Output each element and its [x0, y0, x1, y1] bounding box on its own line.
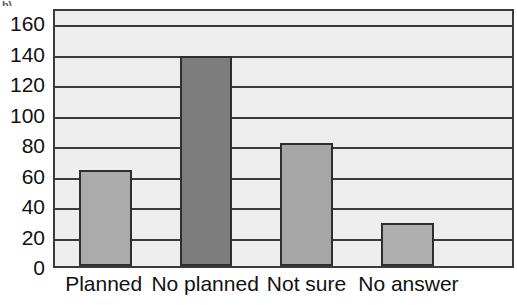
y-axis-tick-label: 160 [0, 13, 45, 34]
bar-planned [79, 170, 132, 266]
x-axis-tick-label: No planned [151, 272, 258, 296]
gridline [55, 25, 512, 27]
x-axis: PlannedNo plannedNot sureNo answer [53, 272, 514, 302]
x-axis-tick-label: Planned [65, 272, 142, 296]
plot-area [53, 9, 514, 268]
y-axis: 020406080100120140160 [0, 0, 52, 305]
bar-chart: b) 020406080100120140160 PlannedNo plann… [0, 0, 517, 305]
x-axis-tick-label: No answer [358, 272, 458, 296]
y-axis-tick-label: 0 [0, 257, 45, 278]
y-axis-tick-label: 40 [0, 196, 45, 217]
y-axis-tick-label: 80 [0, 135, 45, 156]
gridline [55, 117, 512, 119]
bar-no-answer [381, 223, 434, 266]
y-axis-tick-label: 100 [0, 105, 45, 126]
gridline [55, 56, 512, 58]
y-axis-tick-label: 140 [0, 44, 45, 65]
y-axis-tick-label: 60 [0, 166, 45, 187]
bar-not-sure [280, 143, 333, 266]
gridline [55, 86, 512, 88]
y-axis-tick-label: 120 [0, 74, 45, 95]
bar-no-planned [180, 56, 233, 266]
x-axis-tick-label: Not sure [267, 272, 346, 296]
y-axis-tick-label: 20 [0, 227, 45, 248]
